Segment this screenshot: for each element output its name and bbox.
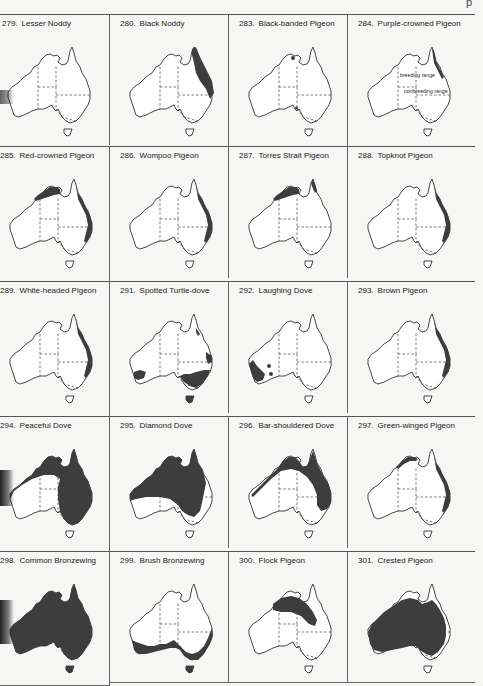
species-number: 301. <box>358 556 374 565</box>
australia-distribution-map <box>2 37 98 143</box>
tasmania-outline <box>186 129 194 136</box>
species-number: 293. <box>358 286 374 295</box>
australia-distribution-map <box>124 304 220 410</box>
australia-distribution-map <box>362 574 458 680</box>
species-label: 286.Wompoo Pigeon <box>120 151 225 160</box>
species-name: Topknot Pigeon <box>378 151 433 160</box>
tasmania-outline <box>66 531 74 538</box>
mainland-outline <box>249 47 331 123</box>
tasmania-outline <box>305 666 313 673</box>
species-label: 297.Green-winged Pigeon <box>358 421 463 430</box>
australia-distribution-map <box>243 169 339 275</box>
species-plate-common-bronzewing: 298.Common Bronzewing <box>0 551 110 686</box>
species-plate-diamond-dove: 295.Diamond Dove <box>110 416 229 548</box>
species-label: 295.Diamond Dove <box>120 421 225 430</box>
australia-distribution-map <box>362 439 458 545</box>
species-label: 301.Crested Pigeon <box>358 556 463 565</box>
species-label: 287.Torres Strait Pigeon <box>239 151 344 160</box>
species-label: 299.Brush Bronzewing <box>120 556 225 565</box>
species-plate-brush-bronzewing: 299.Brush Bronzewing <box>110 551 229 683</box>
species-number: 280. <box>120 19 136 28</box>
mainland-outline <box>368 314 450 390</box>
species-plate-lesser-noddy: 279.Lesser Noddy <box>0 14 110 145</box>
species-number: 298. <box>0 556 16 565</box>
species-plate-black-banded-pigeon: 283.Black-banded Pigeon <box>229 14 348 146</box>
species-plate-spotted-turtle-dove: 291.Spotted Turtle-dove <box>110 281 229 413</box>
species-number: 295. <box>120 421 136 430</box>
species-plate-wompoo-pigeon: 286.Wompoo Pigeon <box>110 146 229 278</box>
species-name: Black-banded Pigeon <box>259 19 335 28</box>
mainland-outline <box>8 47 90 123</box>
species-name: Red-crowned Pigeon <box>20 151 95 160</box>
species-number: 286. <box>120 151 136 160</box>
distribution-range-southeast <box>180 370 210 403</box>
species-name: Peaceful Dove <box>20 421 72 430</box>
australia-distribution-map <box>362 304 458 410</box>
australia-distribution-map <box>124 169 220 275</box>
species-plate-black-noddy: 280.Black Noddy <box>110 14 229 146</box>
species-plate-topknot-pigeon: 288.Topknot Pigeon <box>348 146 475 278</box>
legend-nonbreeding-range: nonbreeding range <box>404 88 448 94</box>
species-name: Crested Pigeon <box>378 556 433 565</box>
page-corner-mark: p <box>466 0 472 8</box>
australia-distribution-map <box>243 439 339 545</box>
page-edge-shadow <box>0 90 14 104</box>
mainland-outline <box>368 47 450 123</box>
species-plate-purple-crowned-pigeon: 284.Purple-crowned Pigeon breeding range… <box>348 14 475 146</box>
mainland-outline <box>10 314 92 390</box>
species-name: Brush Bronzewing <box>140 556 205 565</box>
species-number: 284. <box>358 19 374 28</box>
distribution-map-grid: 279.Lesser Noddy 280.Black Noddy 283.Bla… <box>0 14 475 686</box>
mainland-outline <box>249 584 331 660</box>
species-number: 288. <box>358 151 374 160</box>
species-label: 296.Bar-shouldered Dove <box>239 421 344 430</box>
species-number: 297. <box>358 421 374 430</box>
australia-distribution-map <box>4 169 100 275</box>
tasmania-outline <box>66 396 74 403</box>
tasmania-outline <box>305 396 313 403</box>
species-label: 284.Purple-crowned Pigeon <box>358 19 463 28</box>
species-number: 283. <box>239 19 255 28</box>
species-plate-flock-pigeon: 300.Flock Pigeon <box>229 551 348 683</box>
tasmania-outline <box>424 129 432 136</box>
australia-distribution-map <box>362 169 458 275</box>
species-number: 299. <box>120 556 136 565</box>
species-label: 293.Brown Pigeon <box>358 286 463 295</box>
australia-distribution-map <box>243 574 339 680</box>
species-name: Purple-crowned Pigeon <box>378 19 461 28</box>
page-edge-shadow <box>0 470 14 506</box>
australia-distribution-map <box>243 37 339 143</box>
species-name: Flock Pigeon <box>259 556 305 565</box>
australia-distribution-map <box>4 304 100 410</box>
species-number: 292. <box>239 286 255 295</box>
species-label: 289.White-headed Pigeon <box>0 286 105 295</box>
species-number: 285. <box>0 151 16 160</box>
species-name: Bar-shouldered Dove <box>259 421 335 430</box>
species-label: 280.Black Noddy <box>120 19 225 28</box>
tasmania-outline <box>305 531 313 538</box>
species-plate-peaceful-dove: 294.Peaceful Dove <box>0 416 110 551</box>
species-name: Torres Strait Pigeon <box>259 151 329 160</box>
tasmania-outline <box>305 129 313 136</box>
tasmania-outline <box>186 531 194 538</box>
australia-distribution-map <box>124 439 220 545</box>
species-label: 291.Spotted Turtle-dove <box>120 286 225 295</box>
species-plate-laughing-dove: 292.Laughing Dove <box>229 281 348 413</box>
species-plate-brown-pigeon: 293.Brown Pigeon <box>348 281 475 413</box>
species-name: Green-winged Pigeon <box>378 421 455 430</box>
species-label: 300.Flock Pigeon <box>239 556 344 565</box>
species-name: Brown Pigeon <box>378 286 428 295</box>
tasmania-outline <box>424 261 432 268</box>
species-label: 279.Lesser Noddy <box>2 19 107 28</box>
tasmania-outline <box>424 666 432 673</box>
species-name: White-headed Pigeon <box>20 286 97 295</box>
page-edge-shadow <box>0 600 14 644</box>
species-label: 285.Red-crowned Pigeon <box>0 151 105 160</box>
tasmania-outline <box>424 396 432 403</box>
species-name: Wompoo Pigeon <box>140 151 199 160</box>
australia-distribution-map <box>124 37 220 143</box>
tasmania-outline <box>424 531 432 538</box>
species-name: Common Bronzewing <box>20 556 96 565</box>
species-number: 291. <box>120 286 136 295</box>
